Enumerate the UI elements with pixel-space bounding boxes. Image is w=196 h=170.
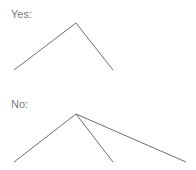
yes-branch-left [14, 23, 76, 70]
yes-tree [14, 23, 113, 70]
tree-diagrams [0, 0, 196, 170]
yes-branch-right [76, 23, 113, 70]
no-tree [14, 114, 186, 162]
no-branch-middle [76, 114, 113, 162]
no-branch-right [76, 114, 186, 162]
no-branch-left [14, 114, 76, 162]
